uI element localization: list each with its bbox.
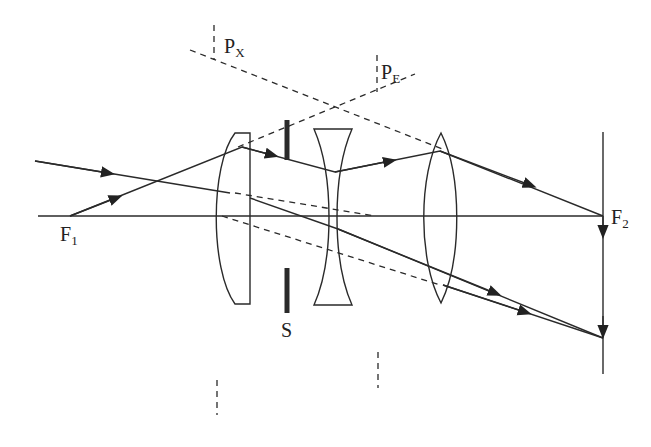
biconcave-lens bbox=[314, 129, 352, 305]
exit-pupil-line bbox=[190, 50, 445, 150]
ray-marginal-arrow2 bbox=[242, 147, 272, 155]
optical-diagram: PX PE F1 F2 S bbox=[0, 0, 651, 447]
label-s: S bbox=[281, 320, 292, 340]
ray-chief-continued bbox=[250, 198, 603, 338]
label-f2: F2 bbox=[611, 207, 629, 230]
ray-marginal-arrow1 bbox=[70, 198, 116, 216]
ray-marginal-arrow3 bbox=[335, 161, 390, 172]
ray-marginal-arrow4 bbox=[440, 151, 530, 185]
biconvex-lens bbox=[424, 133, 457, 303]
label-pe: PE bbox=[381, 62, 400, 85]
plano-convex-lens bbox=[216, 133, 250, 304]
ray-chief-arrow2 bbox=[338, 229, 495, 293]
ray-chief-arrow bbox=[35, 161, 108, 173]
dashed-upper-inner bbox=[235, 193, 375, 216]
label-f1: F1 bbox=[60, 224, 78, 247]
label-px: PX bbox=[224, 36, 245, 59]
diagram-canvas bbox=[0, 0, 651, 447]
